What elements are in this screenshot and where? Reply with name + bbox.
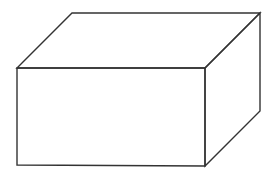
- front-face: [17, 68, 205, 166]
- right-face: [205, 13, 260, 166]
- cuboid-diagram: [0, 0, 280, 177]
- top-face: [17, 13, 260, 68]
